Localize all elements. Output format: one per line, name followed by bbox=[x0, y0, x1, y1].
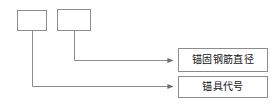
blank-box-rebar-diameter-text bbox=[57, 9, 91, 31]
callout-diagram: 锚固钢筋直径 锚具代号 bbox=[0, 0, 279, 105]
callout-text-anchor-code: 锚具代号 bbox=[178, 76, 268, 98]
blank-box-anchor-code-text bbox=[17, 10, 47, 31]
leader-line-to-rebar-diameter bbox=[75, 31, 174, 61]
callout-text-rebar-diameter: 锚固钢筋直径 bbox=[178, 48, 268, 72]
leader-line-to-anchor-code bbox=[33, 31, 174, 87]
